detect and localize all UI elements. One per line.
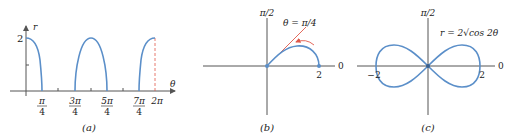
caption-b: (b) bbox=[260, 122, 274, 133]
svg-text:4: 4 bbox=[104, 107, 110, 117]
panel-b: π/2 0 2 θ = π/4 (b) bbox=[203, 8, 344, 133]
theta-axis-label: θ bbox=[170, 79, 176, 89]
curve-segment-2 bbox=[75, 38, 107, 91]
point-label-2-c: 2 bbox=[479, 70, 485, 80]
top-label-b: π/2 bbox=[259, 8, 275, 18]
y-tick-2: 2 bbox=[17, 33, 23, 44]
zero-label-b: 0 bbox=[338, 61, 344, 71]
x-tick-5pi-4: 5π 4 bbox=[101, 96, 114, 117]
point-2-b bbox=[317, 64, 321, 68]
x-tick-3pi-4: 3π 4 bbox=[69, 96, 82, 117]
caption-a: (a) bbox=[82, 122, 96, 133]
svg-text:4: 4 bbox=[39, 107, 45, 117]
r-axis-label: r bbox=[33, 22, 38, 32]
point-label-neg2-c: −2 bbox=[367, 70, 380, 80]
svg-text:3π: 3π bbox=[69, 96, 82, 106]
x-tick-2pi: 2π bbox=[150, 96, 164, 106]
origin-point-b bbox=[265, 64, 269, 68]
equation-label: r = 2√cos 2θ bbox=[440, 28, 499, 38]
x-tick-7pi-4: 7π 4 bbox=[133, 96, 146, 117]
theta-line-label: θ = π/4 bbox=[283, 18, 317, 28]
point-label-2-b: 2 bbox=[316, 70, 322, 80]
svg-text:5π: 5π bbox=[101, 96, 114, 106]
figure: r 2 θ π 4 3π 4 5π 4 7π 4 2π (a) bbox=[0, 0, 508, 138]
origin-point-c bbox=[426, 64, 430, 68]
svg-text:π: π bbox=[38, 96, 46, 106]
svg-text:7π: 7π bbox=[133, 96, 146, 106]
zero-label-c: 0 bbox=[498, 61, 504, 71]
top-label-c: π/2 bbox=[420, 8, 436, 18]
x-tick-pi-4: π 4 bbox=[37, 96, 47, 117]
panel-c: π/2 0 −2 2 r = 2√cos 2θ (c) bbox=[357, 8, 504, 133]
svg-text:4: 4 bbox=[72, 107, 78, 117]
svg-text:4: 4 bbox=[136, 107, 142, 117]
curve-segment-3 bbox=[139, 38, 155, 91]
caption-c: (c) bbox=[421, 122, 435, 133]
petal-curve bbox=[267, 46, 319, 66]
direction-arrow bbox=[296, 41, 314, 45]
panel-a: r 2 θ π 4 3π 4 5π 4 7π 4 2π (a) bbox=[10, 22, 176, 133]
